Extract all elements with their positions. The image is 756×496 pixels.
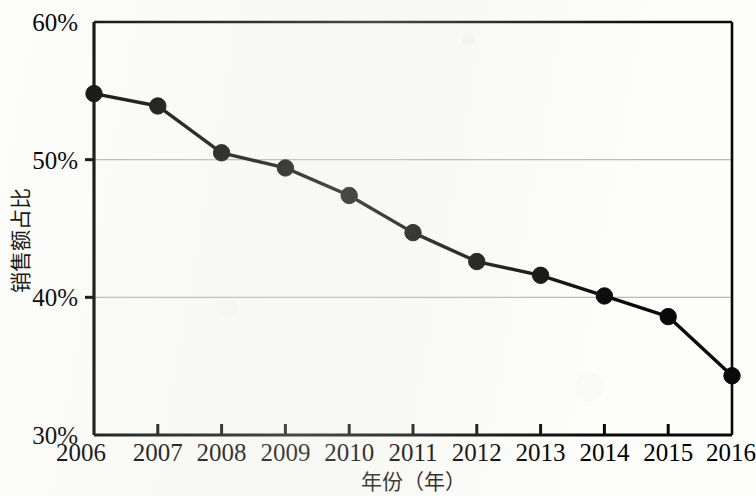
y-axis-title: 销售额占比: [9, 188, 33, 293]
data-point-marker: [86, 85, 102, 101]
data-point-marker: [213, 145, 229, 161]
x-tick-label: 2008: [197, 439, 247, 466]
x-tick-label: 2014: [579, 439, 630, 466]
x-axis-title: 年份（年）: [361, 470, 466, 494]
x-tick-label: 2007: [133, 439, 183, 466]
chart-canvas: 30%40%50%60% 200620072008200920102011201…: [0, 0, 756, 496]
line-chart: 30%40%50%60% 200620072008200920102011201…: [0, 0, 756, 496]
y-tick-label: 50%: [32, 147, 78, 174]
data-point-marker: [724, 368, 740, 384]
x-tick-label-group: 2006200720082009201020112012201320142015…: [56, 439, 756, 466]
data-point-marker: [341, 187, 357, 203]
x-tick-label: 2011: [388, 439, 437, 466]
x-tick-label: 2013: [516, 439, 566, 466]
data-point-marker: [660, 308, 676, 324]
x-tick-label: 2006: [56, 439, 106, 466]
x-tick-label: 2015: [643, 439, 693, 466]
data-point-marker: [150, 98, 166, 114]
x-tick-label: 2009: [260, 439, 310, 466]
data-point-marker: [405, 224, 421, 240]
data-point-marker: [596, 288, 612, 304]
y-tick-label: 60%: [32, 9, 78, 36]
y-tick-label: 40%: [32, 284, 78, 311]
x-tick-label: 2012: [452, 439, 502, 466]
data-point-marker: [469, 253, 485, 269]
data-point-marker: [532, 267, 548, 283]
x-tick-label: 2010: [324, 439, 374, 466]
chart-background: [0, 0, 756, 496]
data-point-marker: [277, 160, 293, 176]
x-tick-label: 2016: [706, 439, 756, 466]
